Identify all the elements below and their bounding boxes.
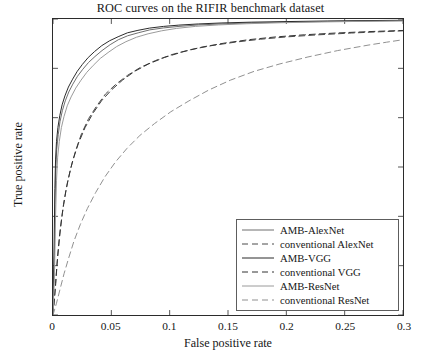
legend-line-swatch [241, 225, 275, 235]
legend-item-label: AMB-AlexNet [280, 225, 344, 236]
legend-line-swatch [241, 267, 275, 277]
legend-item[interactable]: AMB-ResNet [241, 279, 394, 293]
legend-item[interactable]: AMB-VGG [241, 251, 394, 265]
legend-item[interactable]: conventional ResNet [241, 293, 394, 307]
x-tick-label: 0.1 [162, 320, 176, 332]
chart-legend: AMB-AlexNetconventional AlexNetAMB-VGGco… [236, 219, 399, 311]
legend-item-label: AMB-VGG [280, 253, 331, 264]
legend-item-label: conventional ResNet [280, 295, 369, 306]
legend-item-label: conventional VGG [280, 267, 361, 278]
legend-item-label: conventional AlexNet [280, 239, 374, 250]
legend-item[interactable]: conventional AlexNet [241, 237, 394, 251]
legend-line-swatch [241, 253, 275, 263]
x-tick-label: 0.05 [101, 320, 121, 332]
legend-line-swatch [241, 295, 275, 305]
x-tick-label: 0 [49, 320, 55, 332]
legend-item[interactable]: AMB-AlexNet [241, 223, 394, 237]
x-tick-label: 0.25 [335, 320, 355, 332]
x-axis-title: False positive rate [52, 336, 404, 351]
legend-item-label: AMB-ResNet [280, 281, 339, 292]
x-tick-label: 0.3 [397, 320, 411, 332]
chart-title: ROC curves on the RIFIR benchmark datase… [0, 1, 421, 16]
x-tick-label: 0.2 [280, 320, 294, 332]
roc-chart-figure: ROC curves on the RIFIR benchmark datase… [0, 0, 421, 356]
legend-line-swatch [241, 239, 275, 249]
legend-item[interactable]: conventional VGG [241, 265, 394, 279]
legend-line-swatch [241, 281, 275, 291]
x-tick-label: 0.15 [218, 320, 238, 332]
y-axis-title: True positive rate [11, 85, 26, 245]
